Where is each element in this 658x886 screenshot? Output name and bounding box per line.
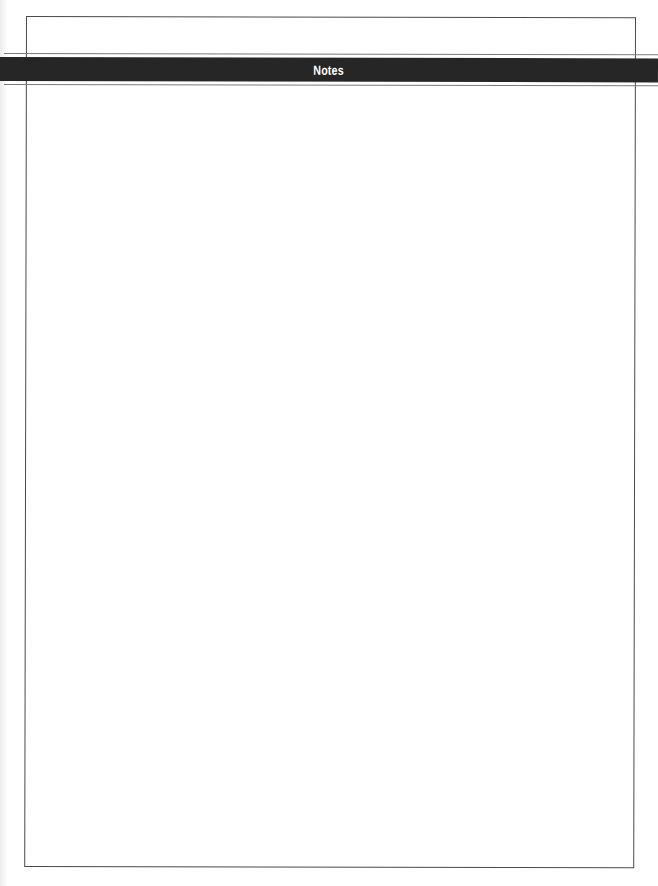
notes-header-banner: Notes: [0, 57, 658, 82]
notes-writing-area: [28, 88, 634, 864]
page-title: Notes: [314, 62, 344, 77]
page-edge-shadow: [0, 0, 8, 886]
